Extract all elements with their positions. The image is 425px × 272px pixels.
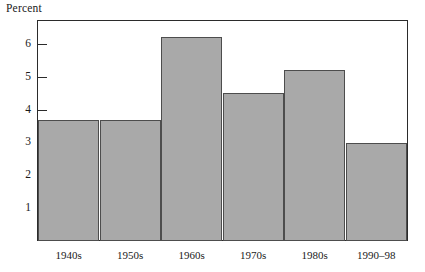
x-axis-label: 1940s — [38, 249, 100, 262]
bar — [100, 120, 161, 241]
bar — [284, 70, 345, 241]
bar — [161, 37, 222, 241]
bar — [346, 143, 407, 242]
y-axis-tick-label: 1 — [0, 202, 31, 214]
y-axis-tick-label: 6 — [0, 38, 31, 50]
x-axis-label: 1960s — [161, 249, 223, 262]
y-axis-tick-label: 4 — [0, 104, 31, 116]
bar — [223, 93, 284, 241]
y-axis-title: Percent — [6, 1, 42, 15]
plot-area — [38, 21, 407, 241]
y-axis-tick-label: 5 — [0, 71, 31, 83]
x-axis-label: 1950s — [100, 249, 162, 262]
x-axis-label: 1970s — [223, 249, 285, 262]
y-axis-tick-label: 2 — [0, 169, 31, 181]
bar — [38, 120, 99, 241]
x-axis-label: 1990–98 — [346, 249, 408, 262]
bar-chart: Percent 123456 1940s1950s1960s1970s1980s… — [0, 0, 425, 272]
x-axis-label: 1980s — [284, 249, 346, 262]
y-axis-tick-label: 3 — [0, 136, 31, 148]
